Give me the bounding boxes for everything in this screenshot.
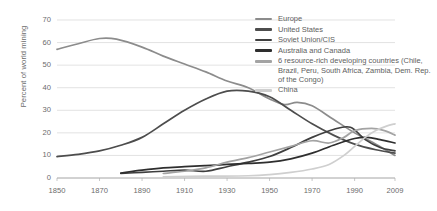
legend-item[interactable]: 6 resource-rich developing countries (Ch… [255,56,435,84]
series-line [57,90,395,156]
x-tick-label: 1950 [250,186,290,195]
series-line [121,127,395,174]
y-tick-label: 30 [29,105,51,114]
legend-swatch [255,18,272,21]
legend-label: United States [278,25,323,34]
x-tick-label: 1990 [335,186,375,195]
legend-item[interactable]: Soviet Union/CIS [255,35,435,44]
y-tick-label: 10 [29,150,51,159]
legend-item[interactable]: China [255,85,435,94]
legend-item[interactable]: Europe [255,14,435,23]
legend-label: Australia and Canada [278,46,350,55]
legend-item[interactable]: Australia and Canada [255,46,435,55]
y-tick-label: 20 [29,128,51,137]
x-tick-label: 1910 [165,186,205,195]
legend-swatch [255,60,272,63]
legend-label: Europe [278,14,302,23]
y-tick-label: 50 [29,60,51,69]
x-tick-label: 1930 [207,186,247,195]
y-tick-label: 70 [29,15,51,24]
legend-label: Soviet Union/CIS [278,35,335,44]
legend-item[interactable]: United States [255,25,435,34]
x-tick-label: 1850 [37,186,77,195]
legend-label: 6 resource-rich developing countries (Ch… [278,56,435,84]
legend-label: China [278,85,298,94]
mining-share-line-chart: Percent of world mining EuropeUnited Sta… [0,0,437,211]
x-tick-label: 1970 [292,186,332,195]
x-tick-label: 1870 [80,186,120,195]
x-tick-label: 1890 [122,186,162,195]
chart-legend: EuropeUnited StatesSoviet Union/CISAustr… [255,14,435,96]
y-tick-label: 40 [29,83,51,92]
legend-swatch [255,49,272,52]
legend-swatch [255,28,272,31]
y-tick-label: 0 [29,173,51,182]
legend-swatch [255,39,272,42]
y-tick-label: 60 [29,38,51,47]
x-tick-label: 2009 [375,186,415,195]
legend-swatch [255,89,272,92]
